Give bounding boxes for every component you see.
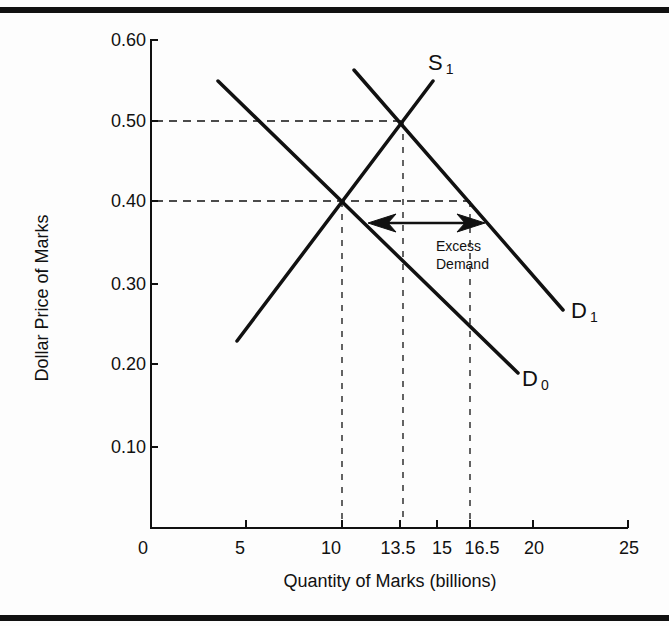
y-tick-0.20: 0.20 xyxy=(111,354,146,375)
x-tick-10: 10 xyxy=(321,538,341,559)
label-d1-main: D xyxy=(571,298,587,323)
x-tick-5: 5 xyxy=(235,538,245,559)
x-tick-25: 25 xyxy=(619,538,639,559)
y-tick-0.50: 0.50 xyxy=(111,111,146,132)
y-axis-title: Dollar Price of Marks xyxy=(32,214,53,381)
label-d0-sub: 0 xyxy=(541,377,549,393)
x-tick-16.5: 16.5 xyxy=(464,538,499,559)
y-tick-0.40: 0.40 xyxy=(111,191,146,212)
supply-curve-s1 xyxy=(237,81,433,341)
label-s1-main: S xyxy=(428,50,443,75)
excess-demand-arrow xyxy=(368,214,485,232)
label-s1: S1 xyxy=(428,50,453,77)
excess-demand-annotation: Excess Demand xyxy=(436,237,489,273)
demand-curve-d1 xyxy=(354,70,563,310)
annotation-line-2: Demand xyxy=(436,255,489,273)
x-tick-13.5: 13.5 xyxy=(380,538,415,559)
x-axis-title: Quantity of Marks (billions) xyxy=(283,571,496,592)
label-d0: D0 xyxy=(522,366,549,393)
x-tick-15: 15 xyxy=(432,538,452,559)
chart-plot xyxy=(0,0,669,626)
label-s1-sub: 1 xyxy=(446,61,454,77)
reference-lines xyxy=(155,121,470,201)
y-tick-0.10: 0.10 xyxy=(111,437,146,458)
label-d1-sub: 1 xyxy=(590,309,598,325)
x-tick-20: 20 xyxy=(524,538,544,559)
label-d1: D1 xyxy=(571,298,598,325)
label-d0-main: D xyxy=(522,366,538,391)
x-tick-0: 0 xyxy=(138,538,148,559)
annotation-line-1: Excess xyxy=(436,237,489,255)
y-tick-0.60: 0.60 xyxy=(111,30,146,51)
y-tick-0.30: 0.30 xyxy=(111,274,146,295)
